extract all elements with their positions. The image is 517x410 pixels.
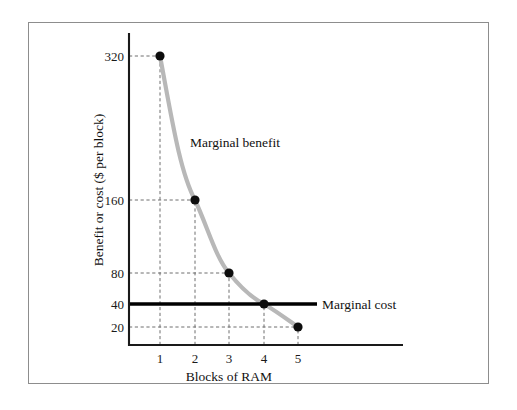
y-tick-label-20: 20 bbox=[111, 320, 124, 335]
y-axis-tick-labels: 320 160 80 40 20 bbox=[105, 49, 125, 335]
x-tick-label-3: 3 bbox=[226, 351, 233, 366]
x-tick-label-2: 2 bbox=[192, 351, 199, 366]
y-tick-label-40: 40 bbox=[111, 297, 124, 312]
y-tick-label-320: 320 bbox=[105, 49, 125, 64]
y-tick-label-160: 160 bbox=[105, 193, 125, 208]
data-point-3 bbox=[224, 268, 233, 277]
figure-root: 320 160 80 40 20 1 2 3 4 5 Blocks of RAM… bbox=[0, 0, 517, 410]
x-tick-label-5: 5 bbox=[295, 351, 302, 366]
x-tick-label-1: 1 bbox=[157, 351, 164, 366]
data-point-4 bbox=[259, 299, 268, 308]
guide-lines-group bbox=[129, 56, 298, 345]
data-point-5 bbox=[293, 322, 302, 331]
x-tick-label-4: 4 bbox=[261, 351, 268, 366]
x-axis-title: Blocks of RAM bbox=[186, 369, 272, 384]
data-point-markers bbox=[155, 51, 302, 331]
data-point-2 bbox=[190, 195, 199, 204]
y-tick-label-80: 80 bbox=[111, 266, 124, 281]
marginal-benefit-label: Marginal benefit bbox=[190, 135, 280, 150]
y-axis-title: Benefit or cost ($ per block) bbox=[91, 114, 106, 267]
x-axis-tick-labels: 1 2 3 4 5 bbox=[157, 351, 302, 366]
data-point-1 bbox=[155, 51, 164, 60]
marginal-benefit-cost-chart: 320 160 80 40 20 1 2 3 4 5 Blocks of RAM… bbox=[0, 0, 517, 410]
marginal-cost-label: Marginal cost bbox=[322, 297, 397, 312]
